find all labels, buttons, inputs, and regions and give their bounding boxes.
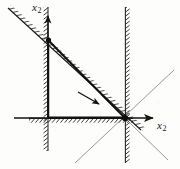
lp-feasible-region-figure: x2 x2	[0, 0, 180, 169]
vertical-axis-label-subscript: 2	[37, 6, 42, 15]
right-vertical-constraint	[125, 7, 130, 163]
diagonal-constraint-line	[8, 8, 141, 130]
vertical-axis-label: x2	[32, 1, 41, 15]
horizontal-axis-label-subscript: 2	[162, 124, 167, 133]
figure-canvas	[0, 0, 180, 169]
horizontal-axis-constraint-hatching	[29, 118, 133, 122]
upper-vertex	[46, 37, 51, 42]
diagonal-constraint	[8, 5, 145, 131]
optimal-vertex	[122, 115, 128, 121]
horizontal-axis-label: x2	[157, 119, 166, 133]
improvement-direction-arrow	[78, 92, 99, 104]
diagonal-constraint-boundary	[48, 40, 125, 118]
